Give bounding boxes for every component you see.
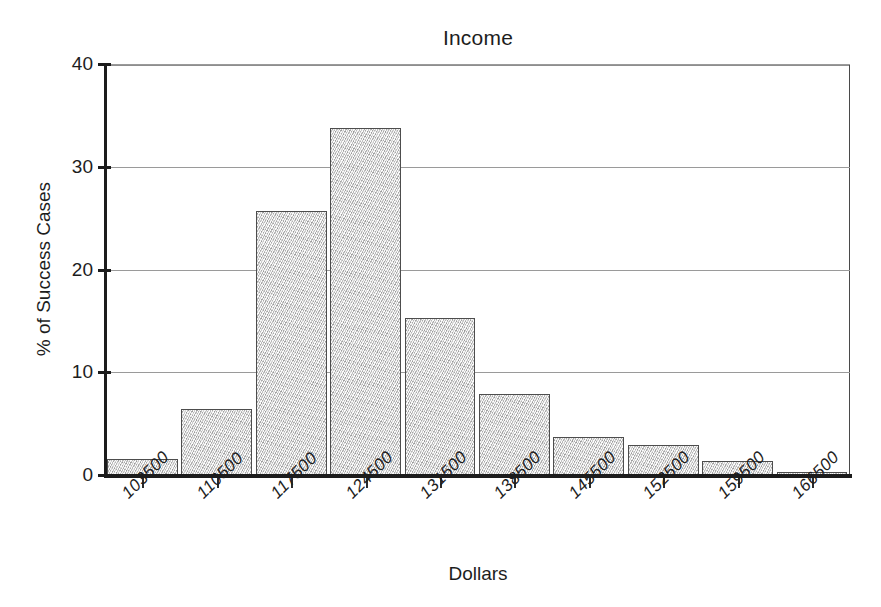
plot-area: 010203040 xyxy=(106,65,850,476)
y-tick-label-40: 40 xyxy=(72,53,93,75)
y-tick-label-20: 20 xyxy=(72,259,93,281)
plot-frame-right xyxy=(849,65,850,476)
bar-117500 xyxy=(256,211,327,475)
y-axis-line xyxy=(104,63,107,478)
y-tick-label-30: 30 xyxy=(72,156,93,178)
income-histogram-figure: Income % of Success Cases 010203040 1035… xyxy=(0,0,881,607)
y-tick-label-10: 10 xyxy=(72,361,93,383)
gridline-20 xyxy=(106,270,850,271)
y-axis-title: % of Success Cases xyxy=(33,139,55,399)
gridline-40 xyxy=(106,64,850,65)
bar-124500 xyxy=(330,128,401,475)
gridline-30 xyxy=(106,167,850,168)
x-axis-title: Dollars xyxy=(106,563,850,585)
y-tick-label-0: 0 xyxy=(82,464,93,486)
plot-frame-top xyxy=(106,65,850,66)
chart-title: Income xyxy=(106,26,850,50)
gridline-10 xyxy=(106,372,850,373)
bar-131500 xyxy=(405,318,476,475)
